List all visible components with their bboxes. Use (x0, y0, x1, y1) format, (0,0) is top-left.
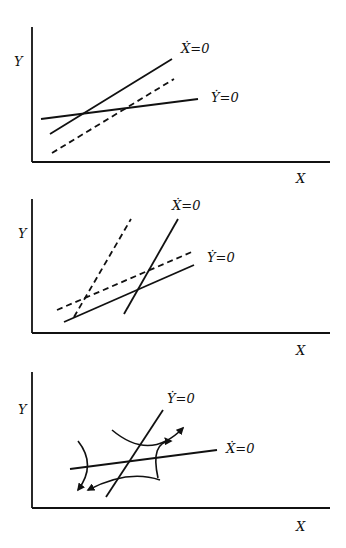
xdot-nullcline (50, 59, 172, 134)
ydot-label: Ẏ=0 (207, 249, 235, 265)
xdot-nullcline (70, 450, 217, 469)
ydot-nullcline (106, 410, 163, 497)
ydot-nullcline (41, 99, 198, 119)
trajectory-arrow-left-down (78, 441, 88, 490)
ydot-nullcline-shifted (57, 251, 194, 310)
xdot-label: Ẋ=0 (180, 40, 209, 56)
panel-3: Y X Ẏ=0 Ẋ=0 (18, 372, 330, 534)
xdot-nullcline (124, 219, 178, 314)
trajectory-arrow-right-up (156, 441, 171, 478)
trajectory-arrow-lower-left (88, 476, 160, 490)
panel-2: Y X Ẋ=0 Ẏ=0 (18, 197, 330, 358)
y-axis-label: Y (14, 54, 24, 69)
ydot-label: Ẏ=0 (211, 89, 239, 105)
panel-1: Y X Ẋ=0 Ẏ=0 (14, 27, 330, 186)
xdot-label: Ẋ=0 (171, 197, 200, 213)
phase-diagram-figure: Y X Ẋ=0 Ẏ=0 Y X Ẋ=0 Ẏ=0 Y X Ẏ=0 Ẋ=0 (0, 0, 346, 548)
xdot-nullcline-shifted (74, 219, 131, 317)
xdot-label: Ẋ=0 (225, 440, 254, 456)
trajectory-arrow-upper-right (112, 428, 183, 446)
x-axis-label: X (295, 171, 306, 186)
ydot-nullcline (64, 265, 194, 322)
y-axis-label: Y (18, 226, 28, 241)
x-axis-label: X (295, 519, 306, 534)
ydot-label: Ẏ=0 (167, 390, 195, 406)
y-axis-label: Y (18, 402, 28, 417)
x-axis-label: X (295, 343, 306, 358)
